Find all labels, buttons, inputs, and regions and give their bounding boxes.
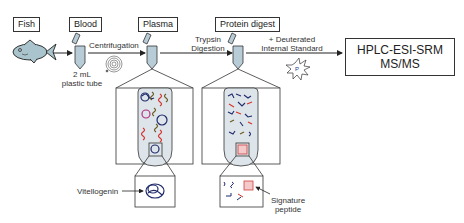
- digest-zoom-frame: [202, 69, 280, 207]
- signature-highlight-box: [238, 145, 247, 154]
- svg-text:P: P: [295, 66, 299, 72]
- diagram-canvas: P: [0, 0, 464, 223]
- instrument-line1: HPLC-ESI-SRM: [346, 43, 454, 57]
- plasma-tube-icon: [143, 33, 157, 69]
- callout-vitellogenin: Vitellogenin: [77, 187, 118, 196]
- callout-signature-line1: Signature: [268, 196, 308, 205]
- callout-signature-line2: peptide: [270, 205, 306, 214]
- instrument-line2: MS/MS: [346, 57, 454, 71]
- plasma-zoom-frame: [116, 69, 193, 207]
- stage-label-plasma: Plasma: [138, 17, 178, 32]
- tube-note-line1: 2 mL: [62, 70, 102, 79]
- step-standard-line2: Internal Standard: [258, 44, 326, 53]
- stage-label-protein-digest: Protein digest: [215, 17, 280, 32]
- internal-standard-burst-icon: P: [286, 58, 310, 80]
- stage-label-fish: Fish: [13, 17, 40, 32]
- tube-note-line2: plastic tube: [58, 79, 106, 88]
- step-centrifugation: Centrifugation: [89, 41, 139, 50]
- instrument-box: HPLC-ESI-SRM MS/MS: [345, 38, 455, 76]
- centrifuge-spiral-icon: [106, 56, 122, 72]
- fish-icon: [13, 40, 56, 63]
- step-trypsin-line1: Trypsin: [188, 35, 228, 44]
- stage-label-blood: Blood: [69, 17, 102, 32]
- blood-tube-icon: [72, 33, 85, 69]
- step-standard-line1: + Deuterated: [262, 35, 322, 44]
- step-trypsin-line2: Digestion: [183, 44, 233, 53]
- signature-peptide-box: [244, 181, 253, 190]
